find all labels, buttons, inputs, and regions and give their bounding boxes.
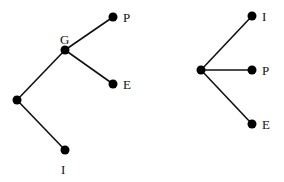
right-root-node — [197, 66, 206, 75]
node-p — [248, 66, 257, 75]
right-tree: I P E — [197, 9, 271, 132]
left-root-node — [13, 96, 22, 105]
node-p — [109, 13, 118, 22]
label-e: E — [262, 117, 270, 132]
node-e — [248, 120, 257, 129]
node-i — [248, 12, 257, 21]
edge-root-i — [17, 100, 65, 150]
edge-g-e — [65, 50, 113, 84]
edge-root-i — [201, 16, 252, 70]
edge-g-p — [65, 17, 113, 50]
node-i — [61, 146, 70, 155]
edge-root-e — [201, 70, 252, 124]
edge-root-g — [17, 50, 65, 100]
label-p: P — [123, 10, 130, 25]
label-g: G — [60, 32, 69, 47]
label-e: E — [123, 77, 131, 92]
left-tree: G P E I — [13, 10, 132, 177]
node-e — [109, 80, 118, 89]
label-p: P — [262, 63, 269, 78]
label-i: I — [262, 9, 266, 24]
diagram-canvas: G P E I I P E — [0, 0, 284, 182]
label-i: I — [61, 162, 65, 177]
